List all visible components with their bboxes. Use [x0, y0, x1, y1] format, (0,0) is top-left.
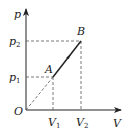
point-a-label: A — [44, 63, 53, 76]
p2-tick-label: p2 — [9, 35, 21, 49]
y-axis-label: p — [14, 8, 21, 21]
x-axis-label: V — [113, 117, 122, 130]
v2-tick-label: V2 — [76, 116, 88, 130]
point-b-label: B — [76, 25, 85, 38]
process-line-a-b — [53, 41, 81, 77]
v1-tick-label: V1 — [48, 116, 60, 130]
p1-tick-label: p1 — [9, 71, 21, 85]
pv-diagram: p V O A B p2 p1 V1 V2 — [0, 0, 129, 137]
origin-label: O — [14, 105, 23, 118]
origin-extension-line — [26, 77, 53, 110]
